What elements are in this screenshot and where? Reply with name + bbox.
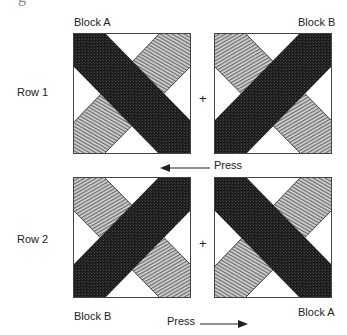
row1-label: Row 1 bbox=[17, 86, 48, 99]
press-left-label: Press bbox=[214, 159, 242, 172]
row1-block-a-quilt bbox=[73, 33, 191, 154]
row1-plus-sign: + bbox=[199, 92, 207, 105]
row2-label: Row 2 bbox=[17, 233, 48, 246]
row2-block-a-quilt bbox=[214, 177, 332, 298]
cropped-heading-fragment: g bbox=[18, 0, 26, 6]
row1-block-b-quilt bbox=[214, 33, 332, 154]
row2-plus-sign: + bbox=[199, 237, 207, 250]
row2-block-b-quilt bbox=[73, 177, 191, 298]
row1-left-block-label: Block A bbox=[74, 16, 111, 29]
press-right-label: Press bbox=[167, 315, 195, 328]
row1-right-block-label: Block B bbox=[298, 16, 335, 29]
row2-left-block-label: Block B bbox=[74, 310, 111, 323]
press-left-arrow-icon bbox=[160, 160, 210, 178]
press-right-arrow-icon bbox=[200, 316, 248, 334]
row2-right-block-label: Block A bbox=[298, 306, 335, 319]
